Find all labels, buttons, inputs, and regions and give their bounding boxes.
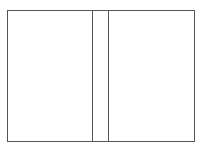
- back-cover-panel: [7, 10, 94, 142]
- front-cover-panel: [108, 10, 195, 142]
